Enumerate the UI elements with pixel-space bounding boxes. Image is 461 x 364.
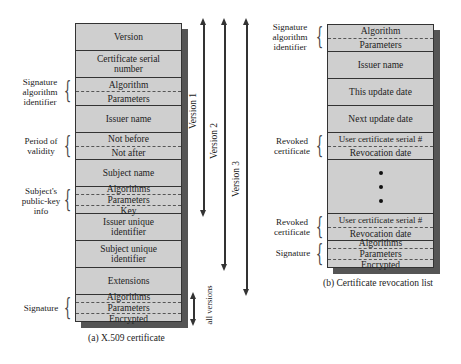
subfield-algorithms: Algorithms [76,184,181,195]
field-label: Subject unique identifier [93,244,165,264]
dot-icon [379,199,383,203]
crl-issuer-name: Issuer name [328,52,433,79]
version-1-arrow-icon [203,24,205,211]
subfield-algorithms: Algorithms [76,292,181,303]
x509-caption: (a) X.509 certificate [88,333,165,343]
subfield-parameters: Parameters [76,92,181,105]
version-3-label: Version 3 [231,161,241,197]
crl-revoked-certificate-2: User certificate serial # Revocation dat… [328,214,433,241]
subfield-revocation-date: Revocation date [328,147,433,160]
field-label: Version [114,32,143,42]
brace-icon: { [64,295,72,319]
subfield-algorithm: Algorithm [76,78,181,92]
label-revoked-certificate-2: Revoked certificate [270,217,314,237]
crl-structure: Algorithm Parameters Issuer name This up… [327,24,434,268]
version-1-label: Version 1 [188,93,198,129]
all-versions-label: all versions [204,286,214,325]
subfield-algorithm: Algorithm [328,25,433,39]
x509-issuer-name: Issuer name [76,106,181,133]
x509-validity: Not before Not after [76,133,181,160]
crl-signature: Algorithms Parameters Encrypted [328,241,433,267]
version-3-arrow-icon [246,24,248,290]
label-signature-algorithm-identifier: Signature algorithm identifier [18,77,62,107]
x509-issuer-unique-id: Issuer unique identifier [76,214,181,241]
field-label: Extensions [108,276,150,286]
x509-subject-name: Subject name [76,160,181,187]
subfield-encrypted: Encrypted [328,260,433,270]
label-public-key-info: Subject's public-key info [16,186,66,216]
x509-signature: Algorithms Parameters Encrypted [76,295,181,321]
field-label: This update date [349,87,412,97]
field-label: Subject name [103,168,154,178]
dot-icon [379,185,383,189]
field-label: Issuer unique identifier [94,217,164,237]
subfield-not-after: Not after [76,147,181,160]
subfield-serial: User certificate serial # [328,214,433,228]
field-label: Issuer name [358,60,404,70]
crl-this-update-date: This update date [328,79,433,106]
dot-icon [379,171,383,175]
subfield-serial: User certificate serial # [328,133,433,147]
brace-icon: { [64,133,72,157]
subfield-parameters: Parameters [76,195,181,206]
crl-next-update-date: Next update date [328,106,433,133]
brace-icon: { [316,133,324,157]
label-signature: Signature [272,248,314,258]
crl-caption: (b) Certificate revocation list [323,278,433,288]
field-label: Certificate serial number [94,54,164,74]
label-period-of-validity: Period of validity [18,136,64,156]
x509-certificate-structure: Version Certificate serial number Algori… [75,23,182,322]
version-2-arrow-icon [224,24,226,265]
x509-serial-number: Certificate serial number [76,51,181,78]
label-signature: Signature [20,303,62,313]
all-versions-arrow-icon [193,298,195,320]
field-label: Issuer name [106,114,152,124]
x509-public-key-info: Algorithms Parameters Key [76,187,181,214]
subfield-encrypted: Encrypted [76,314,181,324]
subfield-algorithms: Algorithms [328,238,433,249]
x509-version: Version [76,24,181,51]
x509-subject-unique-id: Subject unique identifier [76,241,181,268]
subfield-not-before: Not before [76,133,181,147]
brace-icon: { [316,214,324,238]
brace-icon: { [316,24,324,48]
subfield-parameters: Parameters [76,303,181,314]
subfield-parameters: Parameters [328,39,433,52]
brace-icon: { [64,187,72,211]
crl-revoked-certificate-1: User certificate serial # Revocation dat… [328,133,433,160]
label-revoked-certificate-1: Revoked certificate [270,136,314,156]
label-signature-algorithm-identifier: Signature algorithm identifier [268,22,312,52]
brace-icon: { [316,241,324,265]
subfield-parameters: Parameters [328,249,433,260]
field-label: Next update date [348,114,412,124]
brace-icon: { [64,78,72,102]
crl-signature-algorithm: Algorithm Parameters [328,25,433,52]
crl-ellipsis [328,160,433,214]
version-2-label: Version 2 [209,123,219,159]
x509-extensions: Extensions [76,268,181,295]
x509-signature-algorithm: Algorithm Parameters [76,78,181,106]
